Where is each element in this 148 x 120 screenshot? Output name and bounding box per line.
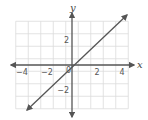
x-tick-label: 4 [119, 68, 124, 77]
x-axis-label: x [137, 59, 143, 70]
y-axis-label: y [69, 2, 76, 13]
x-tick-label: 2 [94, 68, 99, 77]
y-tick-label: −2 [57, 86, 69, 95]
x-tick-label: −4 [16, 68, 28, 77]
line-y-equals-x [27, 15, 127, 110]
y-tick-label: 2 [64, 36, 69, 45]
origin-label: 0 [66, 66, 71, 75]
coordinate-plane: −4−2242−2 x y 0 [0, 0, 148, 120]
x-tick-label: −2 [41, 68, 53, 77]
